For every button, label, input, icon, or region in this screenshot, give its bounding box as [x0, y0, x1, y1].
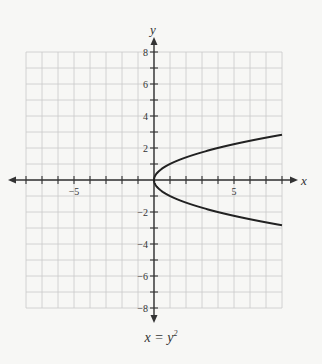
- y-tick-label: 6: [143, 79, 148, 90]
- y-axis-up-arrow-icon: [151, 37, 158, 45]
- y-tick-label: −6: [137, 271, 148, 282]
- x-axis-left-arrow-icon: [8, 177, 16, 184]
- equation-exponent: 2: [173, 329, 177, 338]
- y-tick-label: 2: [143, 143, 148, 154]
- x-axis-label: x: [300, 173, 307, 188]
- x-tick-label: −5: [69, 186, 80, 197]
- x-axis-right-arrow-icon: [290, 177, 298, 184]
- y-tick-label: −4: [137, 239, 148, 250]
- equation-caption: x = y2: [0, 329, 322, 346]
- y-axis-down-arrow-icon: [151, 315, 158, 323]
- graph-plot: −558642−2−4−6−8 x y: [0, 0, 322, 364]
- y-tick-label: 8: [143, 47, 148, 58]
- y-axis-label: y: [148, 22, 156, 37]
- y-tick-label: −2: [137, 207, 148, 218]
- y-tick-label: −8: [137, 303, 148, 314]
- y-tick-label: 4: [143, 111, 148, 122]
- x-tick-label: 5: [232, 186, 237, 197]
- equation-lhs: x = y: [145, 330, 174, 345]
